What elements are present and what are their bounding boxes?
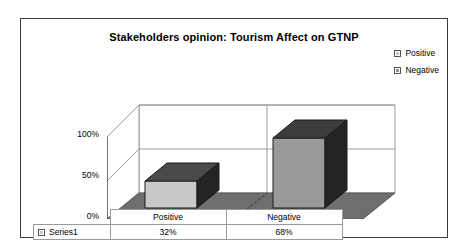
y-tick-label-100: 100% — [77, 129, 99, 139]
legend-item-negative[interactable]: Negative — [394, 64, 439, 77]
table-corner-cell — [34, 210, 111, 225]
plot-svg — [107, 97, 427, 219]
bar-positive-front — [145, 181, 197, 208]
legend-label-positive: Positive — [405, 47, 435, 60]
plot-area — [107, 97, 427, 217]
y-tick-label-50: 50% — [82, 170, 99, 180]
table-row-series1: Series1 32% 68% — [34, 225, 343, 240]
legend-label-negative: Negative — [405, 64, 439, 77]
table-row-categories: Positive Negative — [34, 210, 343, 225]
table-cell-negative-value: 68% — [226, 225, 342, 240]
chart-frame: Stakeholders opinion: Tourism Affect on … — [20, 18, 448, 238]
series-swatch-icon — [38, 229, 45, 236]
bar-negative[interactable] — [273, 120, 347, 208]
table-header-positive: Positive — [110, 210, 226, 225]
chart-screenshot: Stakeholders opinion: Tourism Affect on … — [0, 0, 469, 252]
chart-title: Stakeholders opinion: Tourism Affect on … — [21, 31, 447, 43]
y-axis: 100% 50% 0% — [21, 97, 107, 222]
legend-item-positive[interactable]: Positive — [394, 47, 439, 60]
legend-swatch-icon-positive — [394, 50, 401, 57]
table-header-negative: Negative — [226, 210, 342, 225]
data-table: Positive Negative Series1 32% 68% — [33, 209, 343, 240]
legend-swatch-icon-negative — [394, 67, 401, 74]
chart-legend: Positive Negative — [394, 47, 439, 81]
bar-negative-front — [273, 138, 325, 208]
table-cell-positive-value: 32% — [110, 225, 226, 240]
table-series-label-cell: Series1 — [34, 225, 111, 240]
table-series-label: Series1 — [49, 227, 78, 237]
